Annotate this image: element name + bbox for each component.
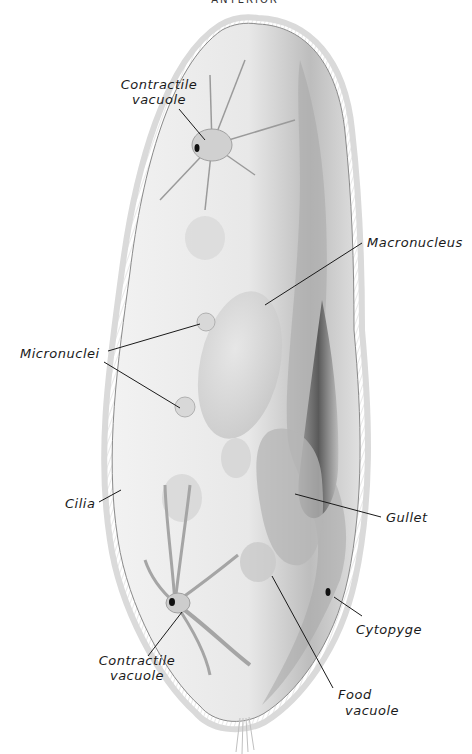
orientation-label: ANTERIOR [211, 0, 278, 5]
food-vacuole [221, 438, 251, 478]
label-gullet: Gullet [386, 510, 428, 525]
food-vacuole [185, 216, 225, 260]
label-contractile-vacuole-top-2: vacuole [132, 92, 186, 107]
label-food-vacuole-1: Food [338, 687, 372, 702]
food-vacuole [240, 542, 276, 582]
label-macronucleus: Macronucleus [367, 235, 463, 250]
label-micronuclei: Micronuclei [20, 346, 100, 361]
label-cytopyge: Cytopyge [356, 622, 422, 637]
label-food-vacuole-2: vacuole [345, 703, 399, 718]
paramecium-diagram: ANTERIOR [0, 0, 472, 754]
cytopyge [326, 588, 331, 596]
label-cilia: Cilia [65, 496, 95, 511]
label-contractile-vacuole-bottom-2: vacuole [110, 668, 164, 683]
label-contractile-vacuole-bottom-1: Contractile [99, 653, 176, 668]
label-contractile-vacuole-top-1: Contractile [121, 77, 198, 92]
micronucleus-1 [197, 313, 215, 331]
